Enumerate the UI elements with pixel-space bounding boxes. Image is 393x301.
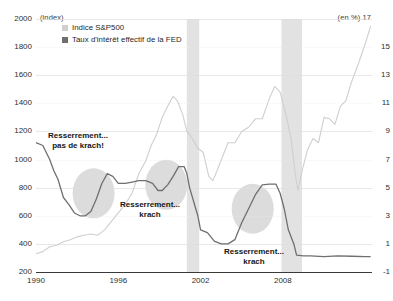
- y-axis-left-tick-label: 400: [2, 239, 32, 248]
- x-axis-tick-label: 1996: [109, 276, 127, 285]
- annotation-line-2: krach: [224, 257, 284, 267]
- y-axis-right-tick-label: 7: [368, 155, 390, 164]
- x-axis-tick-label: 1990: [27, 276, 45, 285]
- highlight-ellipses-group: [73, 160, 274, 234]
- annotation-line-2: krach: [120, 210, 180, 220]
- y-axis-left-tick-label: 1800: [2, 42, 32, 51]
- y-axis-right-tick-label: -1: [368, 267, 390, 276]
- chart-container: (index) (en %) 17 Indice S&P500 Taux d'i…: [0, 0, 393, 301]
- y-axis-left-tick-label: 1400: [2, 98, 32, 107]
- y-axis-left-tick-label: 1000: [2, 155, 32, 164]
- x-axis-tick-label: 2008: [274, 276, 292, 285]
- annotation-line-1: Resserrement...: [48, 131, 108, 141]
- x-axis-tick-label: 2002: [192, 276, 210, 285]
- annotation-resserrement-krach-1: Resserrement... krach: [120, 200, 180, 220]
- y-axis-right-tick-label: 5: [368, 183, 390, 192]
- annotation-resserrement-krach-2: Resserrement... krach: [224, 247, 284, 267]
- annotation-line-2: pas de krach!: [48, 141, 108, 151]
- recession-bands-group: [187, 19, 302, 272]
- annotation-line-1: Resserrement...: [224, 247, 284, 257]
- y-axis-left-tick-label: 200: [2, 267, 32, 276]
- highlight-ellipse: [232, 184, 274, 234]
- highlight-ellipse: [73, 168, 115, 218]
- recession-band: [187, 19, 199, 272]
- annotation-resserrement-pas-de-krach: Resserrement... pas de krach!: [48, 131, 108, 151]
- y-axis-left-tick-label: 1200: [2, 126, 32, 135]
- y-axis-right-tick-label: 15: [368, 42, 390, 51]
- y-axis-right-tick-label: 13: [368, 70, 390, 79]
- y-axis-right-tick-label: 3: [368, 211, 390, 220]
- y-axis-right-tick-label: 1: [368, 239, 390, 248]
- y-axis-left-tick-label: 2000: [2, 14, 32, 23]
- y-axis-right-tick-label: 11: [368, 98, 390, 107]
- y-axis-left-tick-label: 1600: [2, 70, 32, 79]
- y-axis-left-tick-label: 600: [2, 211, 32, 220]
- y-axis-right-tick-label: 9: [368, 126, 390, 135]
- annotation-line-1: Resserrement...: [120, 200, 180, 210]
- y-axis-left-tick-label: 800: [2, 183, 32, 192]
